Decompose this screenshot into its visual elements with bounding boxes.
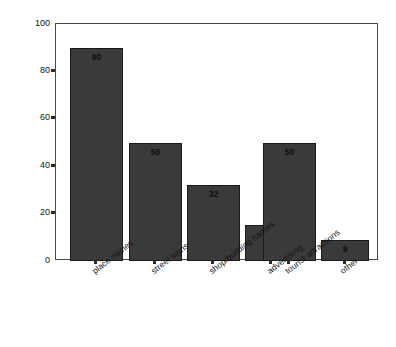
- bar-value-label: 90: [71, 53, 122, 62]
- bar[interactable]: 90: [70, 48, 123, 261]
- bar-value-label: 9: [322, 245, 368, 254]
- plot-area: 90503215509: [55, 23, 378, 260]
- y-axis-tick-label: 100: [35, 19, 55, 28]
- y-axis-tick-label: 0: [45, 256, 55, 265]
- chart-canvas: Percentage 020406080100 90503215509 plac…: [0, 0, 396, 347]
- bar-value-label: 50: [130, 148, 181, 157]
- bar-value-label: 50: [264, 148, 315, 157]
- bar-value-label: 32: [188, 190, 239, 199]
- bar[interactable]: 50: [129, 143, 182, 262]
- bar[interactable]: 50: [263, 143, 316, 262]
- y-axis-title: Percentage: [2, 0, 28, 347]
